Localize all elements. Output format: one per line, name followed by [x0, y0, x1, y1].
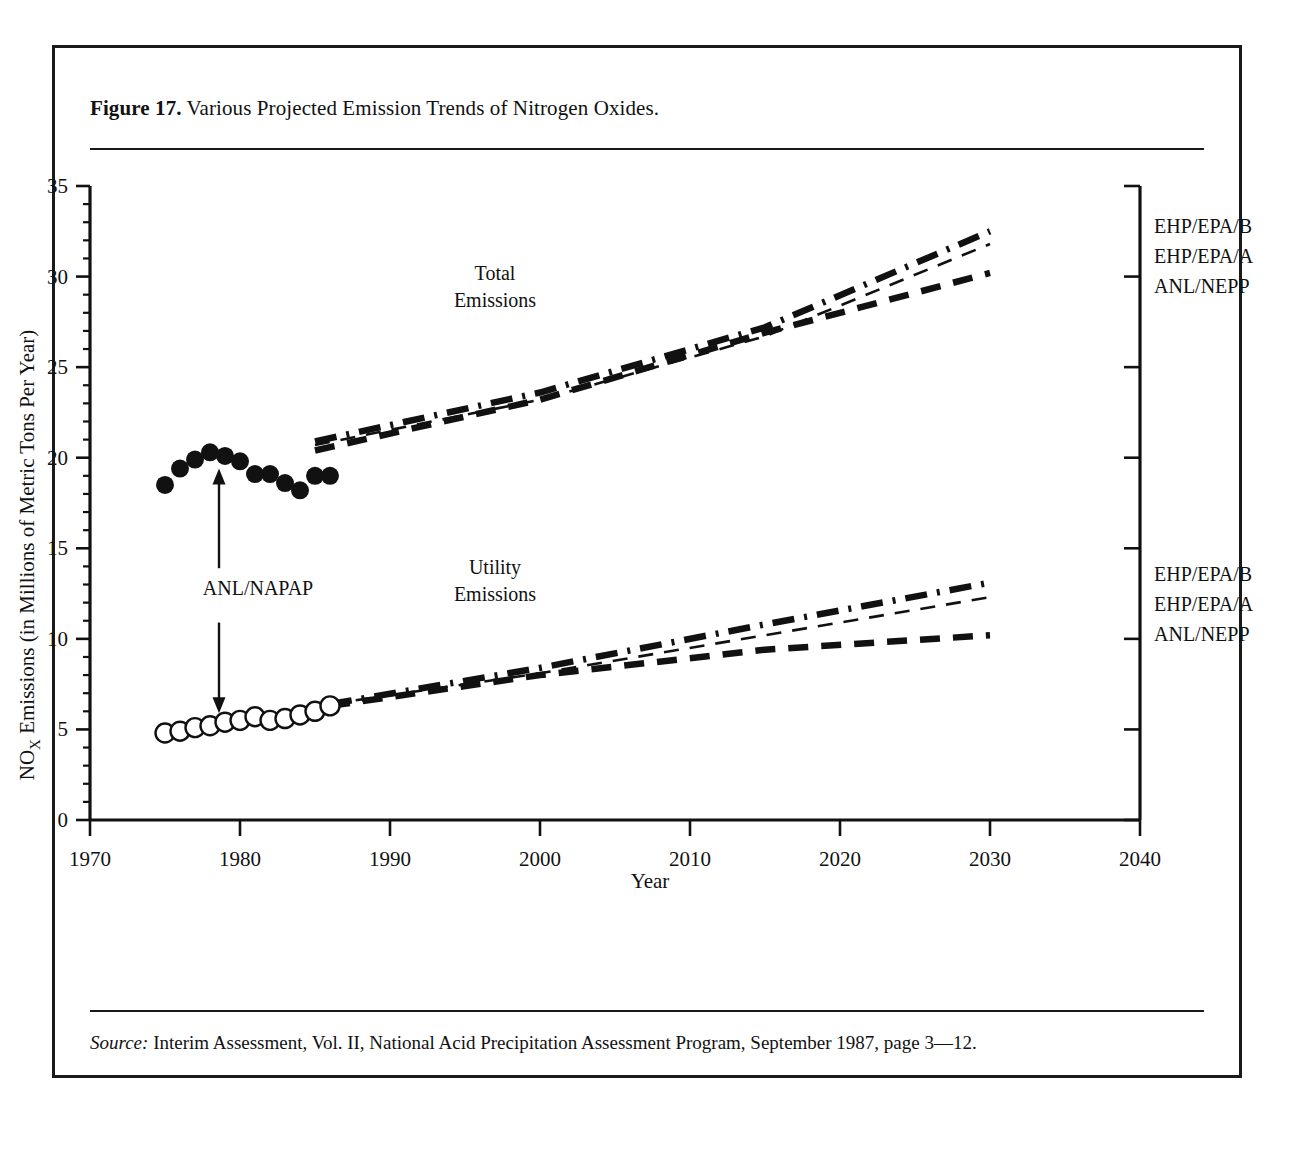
y-axis-right-ticks — [1124, 186, 1140, 820]
data-point-filled — [321, 467, 339, 485]
data-point-filled — [231, 452, 249, 470]
x-tick-label: 1980 — [219, 847, 261, 871]
series-lines — [315, 231, 990, 706]
utility-legend-label: EHP/EPA/B — [1154, 563, 1252, 585]
chart-plot-area: 05101520253035 1970198019902000201020202… — [90, 160, 1210, 950]
x-tick-label: 2000 — [519, 847, 561, 871]
source-divider — [90, 1010, 1204, 1012]
caption-divider-top — [90, 148, 1204, 150]
x-tick-label: 1990 — [369, 847, 411, 871]
x-tick-label: 2030 — [969, 847, 1011, 871]
y-tick-label: 15 — [47, 536, 68, 560]
y-tick-label: 30 — [47, 265, 68, 289]
y-tick-label: 35 — [47, 174, 68, 198]
y-tick-label: 5 — [58, 717, 69, 741]
x-tick-label: 1970 — [69, 847, 111, 871]
data-point-filled — [156, 476, 174, 494]
figure-title: Various Projected Emission Trends of Nit… — [187, 96, 660, 120]
total-legend-label: EHP/EPA/B — [1154, 215, 1252, 237]
y-tick-label: 10 — [47, 627, 68, 651]
x-tick-label: 2040 — [1119, 847, 1161, 871]
y-tick-label: 20 — [47, 446, 68, 470]
x-tick-label: 2010 — [669, 847, 711, 871]
figure-label: Figure 17. — [90, 96, 182, 120]
figure-caption: Figure 17. Various Projected Emission Tr… — [90, 96, 659, 121]
y-axis-title-text: NOX Emissions (in Millions of Metric Ton… — [15, 330, 43, 781]
nox-emissions-chart: 05101520253035 1970198019902000201020202… — [90, 160, 1210, 950]
y-tick-label: 25 — [47, 355, 68, 379]
legend-utility-emissions: EHP/EPA/BEHP/EPA/AANL/NEPP — [1154, 563, 1254, 645]
total-legend-label: EHP/EPA/A — [1154, 245, 1254, 267]
utility-legend-label: ANL/NEPP — [1154, 623, 1250, 645]
source-note: Source: Interim Assessment, Vol. II, Nat… — [90, 1032, 977, 1054]
x-axis-title-text: Year — [631, 869, 670, 893]
data-point-filled — [201, 443, 219, 461]
data-point-open — [321, 696, 340, 715]
data-point-filled — [261, 465, 279, 483]
data-point-filled — [171, 460, 189, 478]
data-point-filled — [291, 481, 309, 499]
source-label: Source: — [90, 1032, 148, 1053]
figure-page: Figure 17. Various Projected Emission Tr… — [0, 0, 1301, 1149]
x-tick-label: 2020 — [819, 847, 861, 871]
series-line — [315, 273, 990, 451]
legend-total-emissions: EHP/EPA/BEHP/EPA/AANL/NEPP — [1154, 215, 1254, 297]
total-legend-label: ANL/NEPP — [1154, 275, 1250, 297]
annotation-total-emissions: TotalEmissions — [454, 262, 536, 311]
annotation-utility-emissions: UtilityEmissions — [454, 556, 536, 605]
arrow-down-head — [213, 697, 226, 713]
utility-legend-label: EHP/EPA/A — [1154, 593, 1254, 615]
source-text: Interim Assessment, Vol. II, National Ac… — [153, 1032, 977, 1053]
x-axis-ticks — [90, 820, 1140, 836]
series-line — [315, 231, 990, 441]
annotation-anl-napap: ANL/NAPAP — [203, 577, 313, 599]
x-axis-tick-labels: 19701980199020002010202020302040 — [69, 847, 1161, 871]
y-axis-title: NOX Emissions (in Millions of Metric Ton… — [15, 330, 43, 781]
y-tick-label: 0 — [58, 808, 69, 832]
arrow-up-head — [213, 469, 226, 485]
